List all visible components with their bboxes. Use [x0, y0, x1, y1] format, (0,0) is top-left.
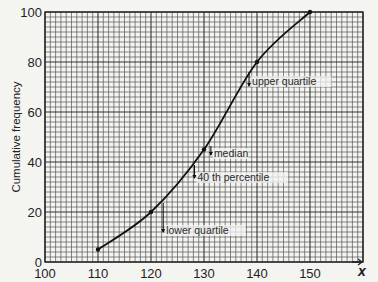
y-tick-label: 20 — [28, 205, 42, 220]
annotation-label: 40 th percentile — [197, 171, 269, 183]
x-tick-label: 150 — [299, 266, 321, 281]
x-tick-label: 120 — [140, 266, 162, 281]
cumulative-frequency-chart: 020406080100 100110120130140150 Cumulati… — [0, 0, 378, 282]
y-tick-label: 60 — [28, 105, 42, 120]
data-point — [255, 60, 259, 64]
annotation-label: upper quartile — [252, 75, 316, 87]
data-point — [308, 10, 312, 14]
x-tick-label: 110 — [88, 266, 109, 281]
annotation-40-th-percentile: 40 th percentile — [192, 165, 288, 183]
x-tick-label: 140 — [246, 266, 268, 281]
x-axis-ticks: 100110120130140150 — [34, 266, 321, 281]
annotation-lower-quartile: lower quartile — [161, 203, 245, 236]
data-point — [96, 247, 100, 251]
annotation-median: median — [209, 146, 249, 159]
y-tick-label: 80 — [28, 55, 42, 70]
x-tick-label: 100 — [34, 266, 56, 281]
y-axis-ticks: 020406080100 — [20, 5, 42, 270]
y-tick-label: 100 — [20, 5, 42, 20]
arrow-down-icon — [247, 83, 251, 87]
x-tick-label: 130 — [193, 266, 215, 281]
annotation-label: median — [214, 147, 249, 159]
annotation-upper-quartile: upper quartile — [247, 72, 331, 87]
y-axis-label: Cumulative frequency — [10, 81, 22, 192]
annotation-label: lower quartile — [166, 224, 229, 236]
y-tick-label: 40 — [28, 155, 42, 170]
data-point — [202, 147, 206, 151]
data-point — [149, 210, 153, 214]
